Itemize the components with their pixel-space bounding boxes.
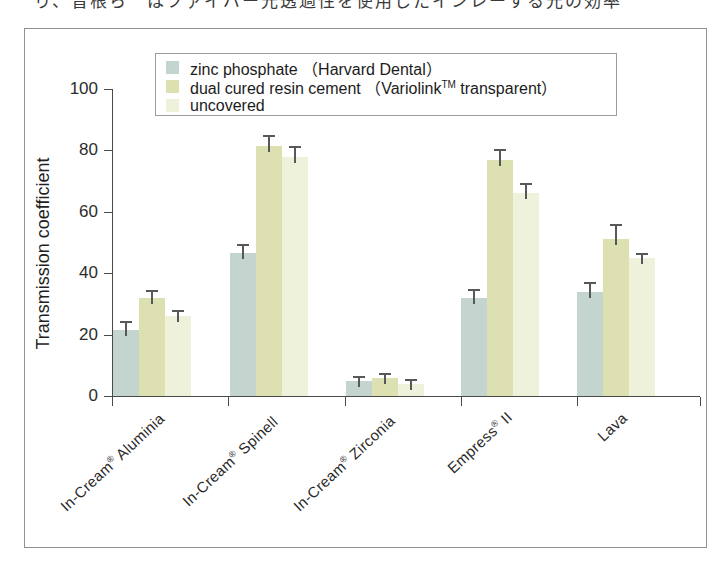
legend-label-uncovered: uncovered	[190, 97, 265, 115]
legend-label-dual-cured-resin-cement: dual cured resin cement （VariolinkTM tra…	[190, 75, 557, 99]
top-caption-text: り、曾根ら はファイバー光透過性を使用したインレーする光の効率	[34, 0, 622, 12]
legend-row-uncovered[interactable]: uncovered	[166, 96, 616, 115]
legend-swatch-dual-cured-resin-cement	[166, 80, 179, 93]
chart-legend: zinc phosphate （Harvard Dental）dual cure…	[155, 53, 617, 116]
legend-swatch-zinc-phosphate	[166, 61, 179, 74]
page-top-caption: り、曾根ら はファイバー光透過性を使用したインレーする光の効率	[0, 0, 719, 20]
legend-row-dual-cured-resin-cement[interactable]: dual cured resin cement （VariolinkTM tra…	[166, 77, 616, 96]
legend-swatch-uncovered	[166, 99, 179, 112]
